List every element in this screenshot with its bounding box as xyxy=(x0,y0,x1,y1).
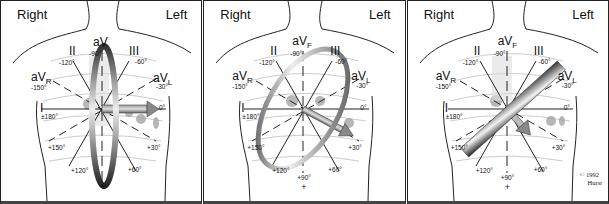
deg-minus90: -90° xyxy=(89,50,101,57)
side-right-label: Right xyxy=(220,7,250,22)
deg-plus150: +150° xyxy=(451,144,468,151)
plus-sign: + xyxy=(100,182,105,192)
deg-minus150: -150° xyxy=(436,83,452,90)
deg-plus60: +60° xyxy=(328,166,342,173)
side-right-label: Right xyxy=(424,7,454,22)
deg-plus150: +150° xyxy=(48,144,65,151)
deg-minus150: -150° xyxy=(232,83,248,90)
panel-3: Right Left aVF -90° II -120° III -60° aV… xyxy=(407,0,609,204)
lead-iii-label: III xyxy=(129,44,139,58)
deg-minus90: -90° xyxy=(494,50,506,57)
copyright-notice: © 1992 Hurst xyxy=(580,171,602,187)
lead-avf-label: aVF xyxy=(292,34,312,50)
deg-plus30: +30° xyxy=(147,144,161,151)
deg-0: 0° xyxy=(159,104,165,111)
copyright-year: © 1992 xyxy=(580,171,602,179)
deg-minus150: -150° xyxy=(31,84,47,91)
deg-plus120: +120° xyxy=(272,167,289,174)
deg-minus90: -90° xyxy=(290,50,302,57)
panel-1: Right Left aV -90° II -120° III -60° aVR… xyxy=(0,0,202,204)
deg-minus120: -120° xyxy=(259,59,275,66)
side-left-label: Left xyxy=(166,7,188,22)
side-left-label: Left xyxy=(369,7,391,22)
deg-minus30: -30° xyxy=(156,83,168,90)
deg-180: ±180° xyxy=(41,113,58,120)
deg-minus120: -120° xyxy=(463,59,479,66)
deg-180: ±180° xyxy=(242,113,259,120)
side-right-label: Right xyxy=(17,7,47,22)
deg-180: ±180° xyxy=(446,113,463,120)
deg-plus60: +60° xyxy=(128,166,142,173)
deg-plus60: +60° xyxy=(534,166,548,173)
deg-plus90: +90° xyxy=(297,174,311,181)
lead-iii-label: III xyxy=(330,44,340,58)
deg-plus150: +150° xyxy=(247,144,264,151)
lead-ii-label: II xyxy=(474,44,481,58)
lead-iii-label: III xyxy=(534,44,544,58)
deg-minus30: -30° xyxy=(356,82,368,89)
lead-avf-label: aVF xyxy=(498,34,518,50)
deg-plus120: +120° xyxy=(71,167,88,174)
deg-minus60: -60° xyxy=(335,58,347,65)
deg-plus30: +30° xyxy=(552,144,566,151)
hexaxial-diagram xyxy=(204,1,405,201)
figure: Right Left aV -90° II -120° III -60° aVR… xyxy=(0,0,609,204)
side-left-label: Left xyxy=(572,7,594,22)
deg-minus30: -30° xyxy=(562,82,574,89)
deg-0: 0° xyxy=(360,104,366,111)
lead-avf-label: aV xyxy=(93,35,108,49)
deg-plus120: +120° xyxy=(476,167,493,174)
hexaxial-diagram xyxy=(408,1,609,201)
deg-plus30: +30° xyxy=(348,144,362,151)
hexaxial-diagram xyxy=(1,1,202,201)
lead-ii-label: II xyxy=(69,44,76,58)
plus-sign: + xyxy=(301,182,306,192)
plus-sign: + xyxy=(505,182,510,192)
deg-plus90: +90° xyxy=(501,174,515,181)
deg-minus60: -60° xyxy=(135,58,147,65)
panel-2: Right Left aVF -90° II -120° III -60° aV… xyxy=(203,0,405,204)
deg-minus120: -120° xyxy=(59,59,75,66)
copyright-author: Hurst xyxy=(580,179,602,187)
lead-ii-label: II xyxy=(270,44,277,58)
deg-minus60: -60° xyxy=(539,58,551,65)
deg-0: 0° xyxy=(564,104,570,111)
